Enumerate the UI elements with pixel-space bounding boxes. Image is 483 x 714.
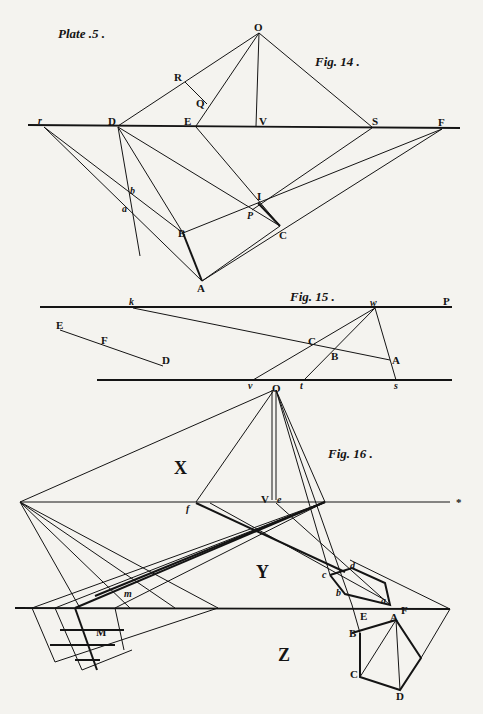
grid-line (32, 608, 55, 662)
fig16-ground-line (15, 608, 450, 609)
label-B16: B (349, 627, 357, 639)
line-DC (118, 127, 280, 226)
region-Y: Y (256, 562, 269, 582)
checker-grid (32, 608, 218, 670)
diag-AD (396, 620, 400, 690)
label-P15: P (443, 295, 450, 307)
fig14-caption: Fig. 14 . (314, 54, 360, 69)
line-OE (196, 33, 259, 126)
line-d-right (350, 560, 450, 609)
line-O-right (276, 390, 325, 502)
label-t: t (300, 380, 304, 391)
label-f: f (186, 503, 191, 514)
fig15: Fig. 15 . k w P E F D C B A v t s (40, 289, 452, 391)
line-right (421, 609, 450, 658)
plate-title: Plate .5 . (58, 26, 105, 41)
line-O-left (20, 390, 274, 502)
label-D15: D (162, 354, 170, 366)
rec-1 (32, 502, 325, 608)
line-OV (256, 33, 259, 126)
label-D16: D (396, 690, 404, 702)
label-s: s (393, 380, 398, 391)
label-V16: V (261, 493, 269, 505)
label-e: e (277, 494, 282, 505)
line-Da (118, 127, 140, 256)
label-Q: Q (196, 97, 205, 109)
label-I: I (257, 190, 261, 202)
label-E15: E (56, 319, 63, 331)
label-m: m (124, 588, 132, 599)
line-f-a (210, 503, 385, 600)
label-a: a (122, 203, 127, 214)
label-A15: A (392, 354, 400, 366)
region-Z: Z (278, 645, 290, 665)
fig14-horizon-line (28, 125, 460, 128)
label-B: B (178, 227, 186, 239)
line-O-E (276, 390, 352, 605)
line-EFD (60, 330, 163, 366)
plate-drawing: Plate .5 . Fig. 14 . O R Q r D E V (0, 0, 483, 714)
vp-ray-3 (20, 502, 175, 608)
label-v: v (248, 380, 253, 391)
line-AC (202, 226, 280, 281)
fig15-caption: Fig. 15 . (289, 289, 335, 304)
label-b16: b (336, 587, 341, 598)
label-r: r (38, 115, 42, 126)
label-A: A (197, 282, 205, 294)
label-star: * (456, 496, 462, 508)
label-C15: C (308, 335, 316, 347)
label-w: w (370, 297, 377, 308)
label-F15: F (101, 334, 108, 346)
label-A16: A (390, 611, 398, 623)
line-e-F (276, 503, 390, 605)
label-c: c (322, 569, 327, 580)
engraved-plate: Plate .5 . Fig. 14 . O R Q r D E V (0, 0, 483, 714)
label-k: k (129, 296, 134, 307)
label-a16: a (381, 595, 386, 606)
fig14: Fig. 14 . O R Q r D E V S F b (28, 21, 460, 294)
line-kA (133, 308, 390, 360)
label-E16: E (360, 610, 367, 622)
line-rB (44, 127, 183, 233)
rec-5 (115, 502, 325, 608)
line-DB (118, 127, 183, 233)
label-M: M (96, 626, 107, 638)
label-R: R (174, 71, 183, 83)
edge-BA (183, 233, 202, 281)
label-S: S (372, 115, 378, 127)
line-FB (183, 129, 442, 233)
label-E: E (184, 115, 191, 127)
fig16-caption: Fig. 16 . (327, 446, 373, 461)
grid-line (55, 608, 218, 662)
line-f-d (196, 503, 345, 572)
label-F16: F (401, 604, 408, 616)
line-FA (202, 129, 442, 281)
label-B15: B (331, 350, 339, 362)
label-C: C (279, 229, 287, 241)
label-V: V (259, 115, 267, 127)
line-OS (259, 33, 372, 127)
fig16: Fig. 16 . (15, 382, 462, 702)
label-C16: C (350, 668, 358, 680)
label-D: D (108, 115, 116, 127)
region-X: X (174, 458, 187, 478)
line-OD (118, 33, 259, 126)
label-P: P (247, 210, 254, 221)
line-O-c (276, 390, 330, 575)
label-b: b (130, 185, 135, 196)
line-ws (375, 308, 396, 380)
label-O: O (254, 21, 263, 33)
ground-plan (352, 620, 421, 690)
label-O16: O (272, 382, 281, 394)
label-F: F (438, 116, 445, 128)
